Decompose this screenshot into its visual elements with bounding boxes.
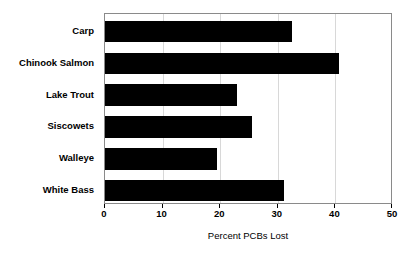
- bar: [105, 180, 284, 202]
- category-label: Carp: [72, 25, 94, 36]
- category-label: White Bass: [43, 184, 94, 195]
- x-axis-tick-labels: 01020304050: [104, 208, 392, 222]
- tick-label: 0: [101, 208, 106, 219]
- category-label: Chinook Salmon: [19, 57, 94, 68]
- category-label: Walleye: [59, 152, 94, 163]
- plot-area: [104, 13, 392, 204]
- bar: [105, 21, 292, 43]
- category-label: Lake Trout: [46, 89, 94, 100]
- tick-label: 10: [156, 208, 167, 219]
- gridline: [335, 14, 336, 203]
- x-axis-title: Percent PCBs Lost: [104, 230, 392, 241]
- bar: [105, 53, 339, 75]
- category-axis-labels: CarpChinook SalmonLake TroutSiscowetsWal…: [0, 13, 99, 204]
- gridline: [278, 14, 279, 203]
- gridline: [220, 14, 221, 203]
- bar: [105, 84, 237, 106]
- tick-label: 30: [272, 208, 283, 219]
- gridline: [163, 14, 164, 203]
- bar-chart: CarpChinook SalmonLake TroutSiscowetsWal…: [0, 0, 416, 254]
- category-label: Siscowets: [48, 120, 94, 131]
- tick-label: 50: [387, 208, 398, 219]
- tick-label: 20: [214, 208, 225, 219]
- tick-label: 40: [329, 208, 340, 219]
- bar: [105, 148, 217, 170]
- bar: [105, 116, 252, 138]
